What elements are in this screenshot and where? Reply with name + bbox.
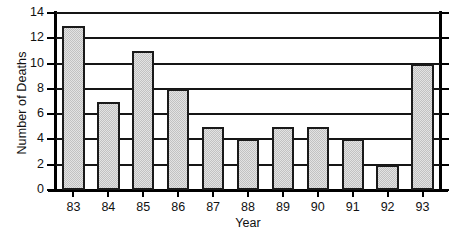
bar — [376, 165, 398, 190]
x-axis-tick — [107, 190, 109, 197]
bar — [411, 64, 433, 190]
y-axis-tick — [440, 164, 449, 166]
y-axis-tick-label: 6 — [22, 107, 44, 120]
x-axis-tick — [352, 190, 354, 197]
y-axis-tick — [440, 88, 449, 90]
x-axis-tick-label: 90 — [303, 201, 333, 214]
plot-area — [56, 13, 440, 190]
y-axis-tick — [440, 189, 449, 191]
x-axis-title: Year — [56, 216, 440, 230]
y-axis-tick-label: 8 — [22, 82, 44, 95]
gridline — [56, 37, 440, 39]
y-axis-tick — [47, 63, 56, 65]
x-axis-tick — [177, 190, 179, 197]
y-axis-tick-label: 0 — [22, 183, 44, 196]
x-axis-tick — [212, 190, 214, 197]
gridline — [56, 88, 440, 90]
x-axis-tick — [422, 190, 424, 197]
bar-chart: Number of Deaths 02468101214 83848586878… — [0, 0, 461, 238]
y-axis-tick — [440, 12, 449, 14]
x-axis-tick-label: 93 — [408, 201, 438, 214]
bar — [272, 127, 294, 190]
bar — [307, 127, 329, 190]
y-axis-tick — [47, 164, 56, 166]
y-axis-tick — [440, 138, 449, 140]
bar — [132, 51, 154, 190]
y-axis-tick-label: 12 — [22, 31, 44, 44]
y-axis-tick-label: 14 — [22, 6, 44, 19]
x-axis-tick-labels: 8384858687888990919293 — [56, 197, 440, 213]
y-axis-tick-label: 2 — [22, 158, 44, 171]
y-axis-tick — [440, 63, 449, 65]
y-axis-tick-label: 10 — [22, 57, 44, 70]
x-axis-tick-label: 92 — [373, 201, 403, 214]
x-axis-tick-label: 85 — [128, 201, 158, 214]
bar — [342, 139, 364, 190]
bar — [167, 89, 189, 190]
x-axis-tick — [72, 190, 74, 197]
x-axis-tick-label: 87 — [198, 201, 228, 214]
x-axis-tick — [142, 190, 144, 197]
y-axis-tick — [440, 113, 449, 115]
y-axis-tick — [47, 37, 56, 39]
bar — [97, 102, 119, 191]
x-axis-tick-label: 91 — [338, 201, 368, 214]
y-axis-tick — [440, 37, 449, 39]
x-axis-tick — [387, 190, 389, 197]
y-axis-tick-label: 4 — [22, 132, 44, 145]
x-axis-tick-label: 88 — [233, 201, 263, 214]
x-axis-tick-label: 83 — [58, 201, 88, 214]
y-axis-tick — [47, 189, 56, 191]
gridline — [56, 63, 440, 65]
bar — [62, 26, 84, 190]
y-axis-tick — [47, 12, 56, 14]
x-axis-tick-label: 84 — [93, 201, 123, 214]
bar — [202, 127, 224, 190]
y-axis-tick — [47, 138, 56, 140]
y-axis-tick-labels: 02468101214 — [20, 0, 44, 238]
x-axis-tick-label: 89 — [268, 201, 298, 214]
x-axis-tick — [247, 190, 249, 197]
y-axis-tick — [47, 113, 56, 115]
x-axis-tick-label: 86 — [163, 201, 193, 214]
bar — [237, 139, 259, 190]
x-axis-tick — [317, 190, 319, 197]
gridline — [56, 12, 440, 14]
x-axis-tick — [282, 190, 284, 197]
y-axis-tick — [47, 88, 56, 90]
